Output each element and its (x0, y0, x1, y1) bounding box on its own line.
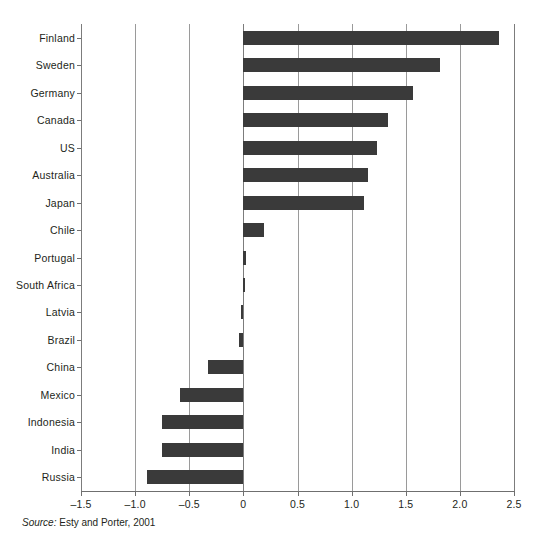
x-tick-mark (243, 491, 244, 496)
category-label-indonesia: Indonesia (28, 416, 75, 428)
x-tick-mark (406, 491, 407, 496)
bar-chile (243, 223, 264, 237)
bar-sweden (243, 58, 440, 72)
gridline-2_5 (514, 24, 515, 491)
category-label-sweden: Sweden (36, 59, 75, 71)
x-tick-mark (298, 491, 299, 496)
x-tick-mark (81, 491, 82, 496)
x-tick-label: 2.0 (452, 498, 467, 510)
y-tick-mark (77, 120, 81, 121)
category-label-australia: Australia (32, 169, 75, 181)
x-tick-mark (135, 491, 136, 496)
bar-finland (243, 31, 498, 45)
category-label-south-africa: South Africa (16, 279, 75, 291)
y-tick-mark (77, 312, 81, 313)
x-tick-label: –1.5 (70, 498, 91, 510)
y-tick-mark (77, 38, 81, 39)
y-tick-mark (77, 367, 81, 368)
bar-portugal (243, 251, 245, 265)
bar-south-africa (243, 278, 244, 292)
bar-india (162, 443, 243, 457)
x-tick-mark (352, 491, 353, 496)
category-label-canada: Canada (37, 114, 75, 126)
category-label-china: China (47, 361, 75, 373)
y-tick-mark (77, 422, 81, 423)
x-tick-label: 0 (240, 498, 246, 510)
bar-japan (243, 196, 363, 210)
y-tick-mark (77, 477, 81, 478)
category-label-portugal: Portugal (34, 252, 75, 264)
gridline-neg1_5 (81, 24, 82, 491)
x-tick-label: –0.5 (179, 498, 200, 510)
y-tick-mark (77, 203, 81, 204)
bar-us (243, 141, 376, 155)
category-label-germany: Germany (30, 87, 75, 99)
y-tick-mark (77, 285, 81, 286)
bar-germany (243, 86, 413, 100)
category-label-us: US (60, 142, 75, 154)
category-label-russia: Russia (42, 471, 75, 483)
y-tick-mark (77, 148, 81, 149)
bar-indonesia (162, 415, 243, 429)
category-label-chile: Chile (50, 224, 75, 236)
category-label-latvia: Latvia (46, 306, 75, 318)
y-tick-mark (77, 93, 81, 94)
gridline-2 (460, 24, 461, 491)
category-label-mexico: Mexico (41, 389, 75, 401)
x-tick-label: 0.5 (290, 498, 305, 510)
x-tick-mark (514, 491, 515, 496)
bar-latvia (241, 305, 243, 319)
bar-china (208, 360, 244, 374)
bar-brazil (239, 333, 243, 347)
x-tick-label: –1.0 (125, 498, 146, 510)
category-label-brazil: Brazil (48, 334, 75, 346)
x-tick-mark (460, 491, 461, 496)
bar-canada (243, 113, 388, 127)
y-tick-mark (77, 230, 81, 231)
x-tick-label: 2.5 (506, 498, 521, 510)
x-tick-label: 1.0 (344, 498, 359, 510)
source-label: Source: (22, 517, 56, 528)
y-tick-mark (77, 175, 81, 176)
source-text: Esty and Porter, 2001 (59, 517, 155, 528)
y-tick-mark (77, 258, 81, 259)
y-tick-mark (77, 395, 81, 396)
chart-figure: –1.5–1.0–0.500.51.01.52.02.5 FinlandSwed… (0, 0, 538, 541)
x-tick-label: 1.5 (398, 498, 413, 510)
category-label-india: India (51, 444, 75, 456)
x-tick-mark (189, 491, 190, 496)
category-label-japan: Japan (45, 197, 75, 209)
bar-russia (147, 470, 243, 484)
bar-australia (243, 168, 367, 182)
source-note: Source: Esty and Porter, 2001 (22, 516, 155, 529)
category-label-finland: Finland (39, 32, 75, 44)
y-tick-mark (77, 65, 81, 66)
y-tick-mark (77, 450, 81, 451)
y-tick-mark (77, 340, 81, 341)
bar-mexico (180, 388, 244, 402)
gridline-neg1 (135, 24, 136, 491)
